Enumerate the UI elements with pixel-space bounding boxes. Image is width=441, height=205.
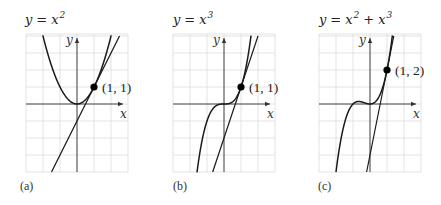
panel-a-x-axis-label: x (120, 107, 127, 121)
panel-a-y-axis-label: y (65, 33, 73, 47)
y-axis-arrow-icon (368, 38, 372, 43)
panel-c-x-axis-label: x (413, 107, 420, 121)
panel-b-x-axis-label: x (267, 107, 274, 121)
panel-b-point-label: (1, 1) (249, 80, 278, 95)
y-axis-arrow-icon (75, 38, 79, 43)
panel-c-tangent-point (383, 66, 390, 73)
panel-b-caption-label: (b) (173, 179, 187, 193)
panel-c-caption-label: (c) (318, 179, 331, 193)
panel-a-title: y=x2 (24, 10, 66, 27)
panel-c-point-label: (1, 2) (395, 63, 424, 78)
panel-b-tangent-point (237, 83, 244, 90)
panel-b: y=x3 (1, 1) x y (b) (172, 10, 278, 193)
panel-a-caption-label: (a) (20, 179, 33, 193)
x-axis-arrow-icon (265, 102, 270, 106)
panel-c: y=x2+x3 (1, 2) x y (c) (318, 10, 424, 193)
panel-a-tangent-point (90, 83, 97, 90)
tangent-line-figure: y=x2 (1, 1) x y (a) y=x3 (1, 1) x y (b) … (0, 0, 441, 205)
panel-b-title: y=x3 (172, 10, 214, 27)
x-axis-arrow-icon (411, 102, 416, 106)
x-axis-arrow-icon (118, 102, 123, 106)
panel-a: y=x2 (1, 1) x y (a) (20, 10, 131, 193)
y-axis-arrow-icon (222, 38, 226, 43)
panel-a-point-label: (1, 1) (102, 80, 131, 95)
panel-c-y-axis-label: y (358, 33, 366, 47)
panel-b-y-axis-label: y (212, 33, 220, 47)
panel-c-title: y=x2+x3 (318, 10, 393, 27)
panel-c-axes (319, 38, 416, 172)
panel-b-axes (173, 38, 270, 172)
